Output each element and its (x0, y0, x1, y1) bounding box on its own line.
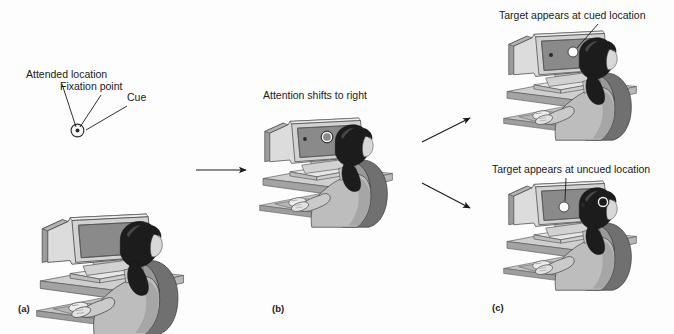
panel-b-workstation (260, 118, 393, 227)
callout-target-cued: Target appears at cued location (499, 9, 646, 21)
panel-a-screen-markers (71, 124, 84, 137)
panel-c-top: Target appears at cued location (499, 9, 646, 140)
panel-c-bottom: Target appears at uncued location (c) (492, 163, 650, 313)
stage-title-b: Attention shifts to right (263, 89, 367, 101)
fixation-dot (581, 203, 585, 207)
panel-letter-a: (a) (18, 303, 30, 314)
panel-b: Attention shifts to right (b) (260, 89, 393, 314)
panel-letter-b: (b) (272, 303, 284, 314)
callout-target-uncued: Target appears at uncued location (492, 163, 650, 175)
target-disc (559, 202, 569, 212)
panel-a: Attended location Fixation point Cue (a) (18, 68, 184, 334)
panel-c-top-workstation (504, 31, 637, 140)
fixation-dot (549, 53, 553, 57)
callout-fixation-point: Fixation point (60, 80, 123, 92)
target-disc (568, 47, 578, 57)
panel-a-workstation (37, 214, 184, 334)
panel-letter-c: (c) (492, 302, 504, 313)
fixation-dot (76, 129, 80, 133)
fixation-dot (303, 137, 307, 141)
callout-attended-location: Attended location (26, 68, 107, 80)
leader-cue (86, 106, 127, 130)
arrow-b-to-c-bottom (422, 183, 470, 208)
arrow-b-to-c-top (422, 118, 470, 142)
leader-fixation-point (80, 95, 101, 127)
posner-cueing-figure: Attended location Fixation point Cue (a)… (0, 0, 674, 334)
callout-cue: Cue (127, 91, 146, 103)
panel-c-bottom-workstation (504, 181, 637, 290)
